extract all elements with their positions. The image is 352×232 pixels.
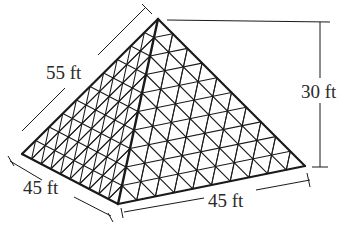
height-top-extension	[167, 20, 330, 22]
pyramid-diagram: 55 ft 30 ft 45 ft 45 ft	[0, 0, 352, 232]
base-right-dim-tick-front	[121, 208, 123, 218]
base-left-label: 45 ft	[23, 178, 58, 197]
base-left-dim-tick	[8, 156, 14, 166]
pyramid-lattice	[22, 19, 305, 204]
base-left-dim-tick-front	[108, 213, 113, 222]
slant-dim-line-lower	[22, 88, 65, 131]
base-right-dim-line-right	[256, 180, 310, 190]
base-left-dim-line-lower	[74, 197, 111, 216]
slant-dim-line-upper	[98, 8, 145, 55]
slant-edge-label: 55 ft	[46, 63, 81, 82]
height-label: 30 ft	[301, 82, 336, 101]
base-right-label: 45 ft	[208, 191, 243, 210]
